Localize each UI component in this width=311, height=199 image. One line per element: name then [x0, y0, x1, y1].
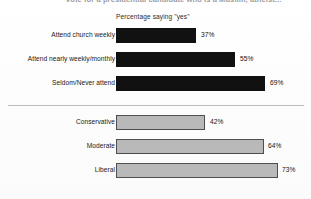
table-row: Moderate 64%: [0, 139, 311, 154]
bar-value-label: 37%: [201, 31, 214, 38]
bar-moderate: [116, 139, 264, 154]
table-row: Attend nearly weekly/monthly 55%: [0, 52, 311, 67]
bar-category-label: Attend nearly weekly/monthly: [28, 55, 115, 62]
chart-subtitle: Percentage saying "yes": [116, 13, 190, 20]
chart-religious-attendance: Attend church weekly 37% Attend nearly w…: [0, 28, 311, 98]
bar-value-label: 73%: [282, 166, 295, 173]
bar-category-label: Attend church weekly: [51, 31, 115, 38]
bar-liberal: [116, 163, 278, 178]
chart-political-ideology: Conservative 42% Moderate 64% Liberal 73…: [0, 115, 311, 187]
table-row: Liberal 73%: [0, 163, 311, 178]
bar-conservative: [116, 115, 205, 130]
bar-attend-church-weekly: [116, 28, 196, 43]
clipped-headline: vote for a presidential candidate who is…: [66, 0, 306, 4]
bar-category-label: Moderate: [87, 142, 115, 149]
bar-value-label: 55%: [240, 55, 253, 62]
bar-value-label: 69%: [270, 79, 283, 86]
bar-seldom-never-attend: [116, 76, 265, 91]
bar-value-label: 42%: [210, 118, 223, 125]
table-row: Seldom/Never attend 69%: [0, 76, 311, 91]
bar-attend-nearly-weekly-monthly: [116, 52, 235, 67]
bar-category-label: Liberal: [95, 166, 115, 173]
table-row: Attend church weekly 37%: [0, 28, 311, 43]
table-row: Conservative 42%: [0, 115, 311, 130]
section-divider: [8, 105, 304, 106]
bar-category-label: Seldom/Never attend: [52, 79, 115, 86]
bar-value-label: 64%: [268, 142, 281, 149]
bar-category-label: Conservative: [76, 118, 115, 125]
